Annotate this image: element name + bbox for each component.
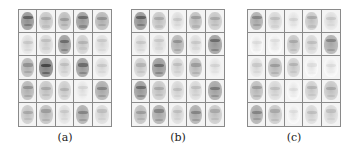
basis-image-tile — [93, 56, 111, 79]
face-shade — [287, 58, 300, 77]
face-shade — [58, 105, 71, 124]
eye-band — [97, 87, 107, 90]
basis-image-tile — [19, 10, 37, 33]
basis-image-tile — [187, 33, 205, 56]
mouth-band — [61, 49, 69, 51]
basis-image-tile — [266, 10, 284, 33]
face-shade — [324, 81, 338, 100]
basis-image-tile — [248, 56, 266, 79]
eye-band — [270, 17, 280, 20]
mouth-band — [211, 71, 219, 73]
face-shade — [171, 12, 184, 31]
basis-image-tile — [206, 10, 224, 33]
basis-image-tile — [187, 10, 205, 33]
mouth-band — [24, 95, 32, 97]
mouth-band — [155, 25, 163, 27]
face-shade — [324, 12, 338, 31]
face-shade — [250, 81, 263, 100]
eye-band — [136, 41, 146, 44]
eye-band — [210, 17, 220, 20]
eye-band — [60, 18, 70, 21]
mouth-band — [211, 95, 219, 97]
face-shade — [171, 58, 184, 77]
mouth-band — [155, 119, 163, 121]
basis-image-tile — [266, 33, 284, 56]
basis-image-tile — [206, 33, 224, 56]
basis-image-tile — [74, 80, 92, 103]
mouth-band — [211, 118, 219, 120]
eye-band — [60, 88, 70, 91]
panel-c: (c) — [247, 9, 341, 144]
eye-band — [78, 63, 88, 66]
mouth-band — [42, 47, 50, 49]
basis-image-tile — [248, 80, 266, 103]
basis-image-tile — [93, 80, 111, 103]
face-shade — [208, 12, 222, 31]
basis-image-tile — [248, 103, 266, 126]
face-shade — [189, 12, 202, 31]
face-shade — [39, 12, 52, 31]
mouth-band — [327, 71, 335, 73]
basis-image-tile — [206, 80, 224, 103]
mouth-band — [192, 47, 200, 49]
eye-band — [326, 109, 336, 112]
eye-band — [154, 17, 164, 20]
basis-image-tile — [322, 80, 340, 103]
basis-image-tile — [74, 56, 92, 79]
face-shade — [287, 35, 300, 54]
eye-band — [23, 16, 33, 19]
face-shade — [39, 35, 52, 54]
eye-band — [191, 63, 201, 66]
basis-image-tile — [150, 103, 168, 126]
eye-band — [97, 109, 107, 112]
mouth-band — [327, 95, 335, 97]
mouth-band — [290, 49, 298, 51]
mouth-band — [24, 118, 32, 120]
face-shade — [95, 105, 109, 124]
face-shade — [39, 105, 52, 124]
mouth-band — [192, 119, 200, 121]
face-shade — [305, 105, 318, 124]
basis-image-tile — [322, 103, 340, 126]
face-shade — [95, 58, 109, 77]
face-shade — [250, 105, 263, 124]
face-shade — [21, 12, 34, 31]
basis-image-tile — [285, 10, 303, 33]
panel-caption: (b) — [131, 131, 225, 144]
face-shade — [95, 12, 109, 31]
mouth-band — [42, 94, 50, 96]
basis-image-tile — [303, 33, 321, 56]
basis-image-tile — [56, 56, 74, 79]
eye-band — [252, 16, 262, 19]
face-shade — [21, 81, 34, 100]
basis-image-tile — [56, 80, 74, 103]
eye-band — [136, 16, 146, 19]
face-shade — [152, 35, 165, 54]
mouth-band — [155, 47, 163, 49]
mouth-band — [42, 72, 50, 74]
mouth-band — [137, 49, 145, 51]
face-shade — [76, 35, 89, 54]
panel-b: (b) — [131, 9, 225, 144]
face-shade — [21, 58, 34, 77]
basis-image-tile — [322, 56, 340, 79]
basis-image-tile — [169, 80, 187, 103]
basis-image-tile — [132, 56, 150, 79]
eye-band — [252, 41, 262, 44]
face-shade — [268, 12, 281, 31]
mouth-band — [98, 118, 106, 120]
mouth-band — [98, 49, 106, 51]
face-shade — [287, 12, 300, 31]
eye-band — [41, 87, 51, 90]
mouth-band — [271, 47, 279, 49]
basis-image-tile — [74, 103, 92, 126]
mouth-band — [61, 71, 69, 73]
basis-image-tile — [248, 10, 266, 33]
face-shade — [134, 12, 147, 31]
mouth-band — [79, 47, 87, 49]
eye-band — [289, 18, 299, 21]
face-shade — [208, 35, 222, 54]
basis-image-tile — [19, 56, 37, 79]
face-shade — [171, 35, 184, 54]
basis-image-tile — [322, 10, 340, 33]
